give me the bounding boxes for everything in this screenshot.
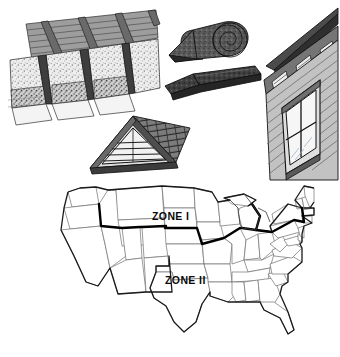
zone-1-label: ZONE I <box>152 210 189 222</box>
attic-insulation-illustration <box>8 8 160 126</box>
gable-vent-illustration <box>86 112 194 178</box>
house-wall-illustration <box>252 8 338 180</box>
us-zone-map <box>52 182 314 350</box>
zone-2-label: ZONE II <box>165 274 206 286</box>
insulation-batt <box>165 66 261 100</box>
insulation-roll <box>169 22 248 62</box>
insulation-zone-figure: ZONE I ZONE II <box>0 0 340 357</box>
